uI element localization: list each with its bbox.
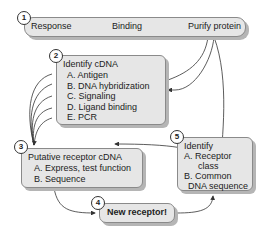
step3-item-a: A. Express, test function bbox=[34, 163, 131, 174]
step2-title: Identify cDNA bbox=[63, 59, 118, 70]
step3-number: 3 bbox=[14, 140, 28, 154]
step1-purify: Purify protein bbox=[188, 21, 241, 32]
step3-title: Putative receptor cDNA bbox=[28, 152, 122, 163]
step4-box: New receptor! bbox=[99, 203, 175, 223]
step4-number: 4 bbox=[91, 196, 105, 210]
step2-item-d: D. Ligand binding bbox=[67, 102, 137, 113]
step4-title: New receptor! bbox=[107, 207, 167, 218]
step1-box: Response Binding Purify protein bbox=[24, 17, 246, 37]
step1-response: Response bbox=[31, 21, 72, 32]
step2-number: 2 bbox=[49, 49, 63, 63]
step2-item-c: C. Signaling bbox=[67, 91, 116, 102]
step3-item-b: B. Sequence bbox=[34, 174, 86, 185]
step1-binding: Binding bbox=[112, 21, 142, 32]
step2-item-e: E. PCR bbox=[67, 112, 97, 123]
step1-number: 1 bbox=[17, 11, 31, 25]
step3-box: Putative receptor cDNA A. Express, test … bbox=[21, 148, 143, 188]
step2-item-b: B. DNA hybridization bbox=[67, 81, 150, 92]
step2-item-a: A. Antigen bbox=[67, 70, 108, 81]
step2-box: Identify cDNA A. Antigen B. DNA hybridiz… bbox=[56, 55, 166, 125]
step5-number: 5 bbox=[170, 130, 184, 144]
step5-item-b-cont: DNA sequence bbox=[188, 181, 248, 192]
step5-box: Identify A. Receptor class B. Common DNA… bbox=[177, 137, 253, 191]
